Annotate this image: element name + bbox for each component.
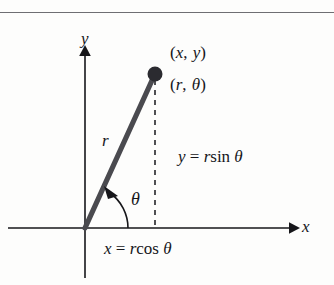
paren-close-rtheta: ) xyxy=(200,75,206,94)
x-axis-label: x xyxy=(302,218,310,235)
x-axis-arrowhead xyxy=(289,222,300,234)
comma-xy: , xyxy=(183,43,193,62)
point-marker xyxy=(148,67,163,82)
eq-y-theta: θ xyxy=(234,147,242,166)
radius-label: r xyxy=(102,132,109,149)
equation-x-cos: x = rcos θ xyxy=(104,240,172,257)
eq-y-lhs: y xyxy=(178,147,186,166)
angle-arc xyxy=(110,193,128,228)
eq-x-lhs: x xyxy=(104,239,112,258)
eq-x-theta: θ xyxy=(163,239,171,258)
eq-y-sin: sin xyxy=(210,147,230,166)
point-theta-symbol: θ xyxy=(192,75,200,94)
y-axis-label: y xyxy=(81,30,89,47)
eq-y-equals: = xyxy=(186,147,204,166)
eq-x-cos: cos xyxy=(136,239,159,258)
polar-coordinates-figure: y x r θ (x, y) (r, θ) y = rsin θ x = rco… xyxy=(0,0,334,285)
paren-close-xy: ) xyxy=(200,43,206,62)
point-polar-label: (r, θ) xyxy=(170,76,206,93)
radius-ray xyxy=(85,76,154,228)
theta-angle-label: θ xyxy=(131,190,140,208)
eq-x-equals: = xyxy=(112,239,130,258)
comma-rtheta: , xyxy=(182,75,192,94)
point-cartesian-label: (x, y) xyxy=(170,44,206,61)
equation-y-sin: y = rsin θ xyxy=(178,148,243,165)
